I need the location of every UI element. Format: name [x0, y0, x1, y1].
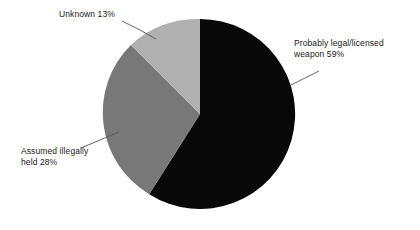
leader-line-unknown — [122, 21, 156, 39]
pie-chart-graphic — [0, 0, 420, 230]
pie-chart-figure: Unknown 13% Probably legal/licensed weap… — [0, 0, 420, 230]
pie-label-assumed-illegal: Assumed illegally held 28% — [21, 146, 131, 168]
pie-label-probably-legal: Probably legal/licensed weapon 59% — [294, 38, 418, 60]
pie-label-unknown: Unknown 13% — [59, 9, 115, 20]
leader-line-probably-legal — [291, 71, 319, 85]
